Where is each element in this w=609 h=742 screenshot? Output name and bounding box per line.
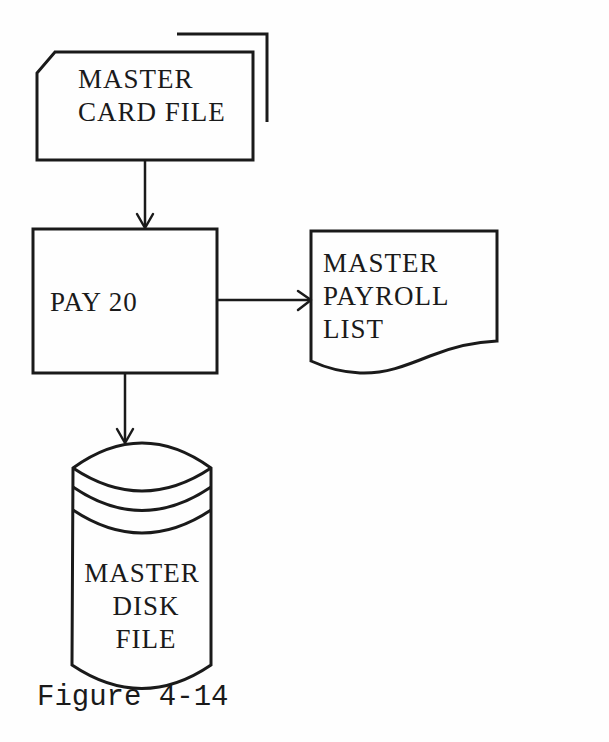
disk-label-line-2: DISK: [112, 591, 179, 621]
disk-label-line-3: FILE: [116, 624, 177, 654]
process-node: PAY 20: [33, 229, 217, 373]
disk-file-node: MASTER DISK FILE: [72, 443, 211, 689]
disk-label-line-1: MASTER: [84, 558, 200, 588]
report-node: MASTER PAYROLL LIST: [311, 231, 497, 373]
figure-caption: Figure 4-14: [37, 681, 228, 714]
report-label-line-2: PAYROLL: [323, 281, 450, 311]
report-label-line-3: LIST: [323, 314, 384, 344]
flowchart-diagram: MASTER CARD FILE PAY 20 MASTER PAYROLL L…: [0, 0, 609, 742]
card-file-label-line-1: MASTER: [78, 64, 194, 94]
card-file-label-line-2: CARD FILE: [78, 97, 226, 127]
disk-band-1: [73, 468, 211, 491]
disk-band-3: [73, 510, 211, 533]
process-label: PAY 20: [50, 287, 138, 317]
card-file-node: MASTER CARD FILE: [37, 34, 267, 160]
arrow-card-to-process: [137, 161, 153, 228]
arrow-process-to-report: [218, 291, 311, 310]
arrow-process-to-disk: [117, 374, 133, 443]
report-label-line-1: MASTER: [323, 248, 439, 278]
